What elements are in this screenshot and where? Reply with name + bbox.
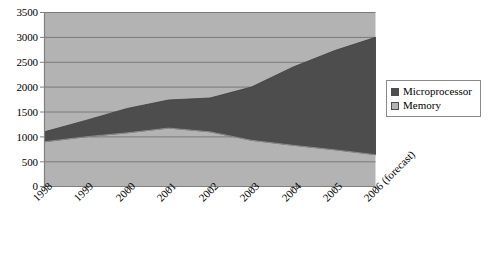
legend-label-microprocessor: Microprocessor (403, 86, 472, 97)
legend-label-memory: Memory (403, 100, 441, 111)
x-axis-label-2003: 2003 (238, 180, 261, 203)
x-axis-label-2004: 2004 (280, 180, 303, 203)
x-axis-label-2006: 2006 (forecast) (362, 149, 417, 204)
x-axis-label-1999: 1999 (72, 180, 95, 203)
x-axis-labels: 1998 1999 2000 2001 2002 2003 2004 2005 … (0, 0, 488, 259)
x-axis-label-2002: 2002 (197, 180, 220, 203)
x-axis-label-2001: 2001 (155, 180, 178, 203)
x-axis-label-2005: 2005 (321, 180, 344, 203)
legend-swatch-microprocessor-icon (391, 88, 399, 96)
area-chart: 3500 3000 2500 2000 1500 1000 500 0 1998… (0, 0, 488, 259)
x-axis-label-2000: 2000 (114, 180, 137, 203)
legend-swatch-memory-icon (391, 102, 399, 110)
chart-legend: Microprocessor Memory (386, 80, 481, 117)
legend-item-microprocessor[interactable]: Microprocessor (391, 85, 477, 98)
x-axis-label-1998: 1998 (31, 180, 54, 203)
legend-item-memory[interactable]: Memory (391, 99, 477, 112)
